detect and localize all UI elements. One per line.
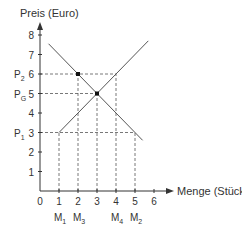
y-tick-label: 7 — [28, 50, 34, 61]
y-tick-label: 1 — [28, 167, 34, 178]
price-label: PG — [14, 89, 26, 102]
x-tick-label: 4 — [113, 196, 119, 207]
price-label: P1 — [14, 128, 25, 141]
y-tick-label: 4 — [28, 108, 34, 119]
quantity-label: M1 — [54, 212, 66, 225]
y-tick-label: 2 — [28, 147, 34, 158]
quantity-label: M2 — [130, 212, 142, 225]
x-arrow-icon — [166, 188, 174, 194]
point-marker — [76, 72, 80, 76]
y-tick-label: 3 — [28, 128, 34, 139]
angebot-line — [59, 41, 148, 133]
x-tick-label: 5 — [132, 196, 138, 207]
supply-demand-chart: 012345612345678 P2PGP1M1M3M4M2 Preis (Eu… — [0, 0, 242, 229]
x-tick-label: 3 — [94, 196, 100, 207]
y-tick-label: 5 — [28, 89, 34, 100]
y-tick-label: 6 — [28, 69, 34, 80]
y-axis-label: Preis (Euro) — [20, 7, 79, 19]
point-marker — [95, 92, 99, 96]
x-tick-label: 0 — [37, 196, 43, 207]
x-tick-label: 2 — [75, 196, 81, 207]
dashed-guides — [40, 74, 135, 191]
price-label: P2 — [14, 69, 25, 82]
quantity-label: M4 — [111, 212, 123, 225]
quantity-label: M3 — [73, 212, 85, 225]
y-tick-label: 8 — [28, 30, 34, 41]
y-arrow-icon — [37, 22, 43, 30]
axes: 012345612345678 — [28, 22, 174, 207]
x-tick-label: 1 — [56, 196, 62, 207]
x-axis-label: Menge (Stück) — [177, 185, 242, 197]
x-tick-label: 6 — [151, 196, 157, 207]
curves — [49, 41, 149, 140]
